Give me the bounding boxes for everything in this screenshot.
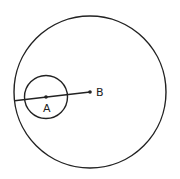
point-a-label: A (43, 102, 51, 115)
point-b-label: B (96, 86, 104, 99)
point-b-dot (88, 90, 92, 94)
radius-segment (15, 92, 91, 101)
point-a-dot (44, 95, 48, 99)
circles-diagram: A B (0, 0, 180, 179)
